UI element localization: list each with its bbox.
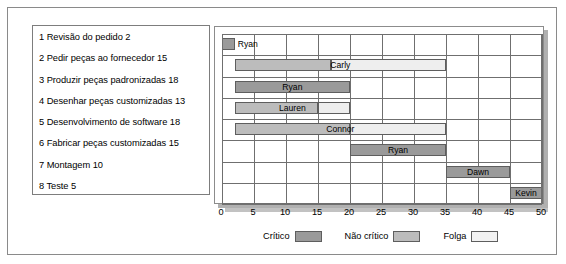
task-list-item: 5 Desenvolvimento de software 18	[39, 112, 207, 133]
x-tick-label: 0	[209, 207, 233, 217]
gantt-row: Ryan	[222, 77, 542, 98]
x-tick-label: 10	[273, 207, 297, 217]
legend-item-critical: Crítico	[263, 231, 322, 242]
x-tick-label: 50	[529, 207, 553, 217]
gantt-row: Kevin	[222, 183, 542, 204]
legend-label: Crítico	[263, 231, 290, 241]
gantt-row: Ryan	[222, 34, 542, 55]
task-list-item: 4 Desenhar peças customizadas 13	[39, 91, 207, 112]
x-tick-label: 5	[241, 207, 265, 217]
grid-line-horizontal	[222, 204, 542, 205]
chart-legend: CríticoNão críticoFolga	[263, 228, 498, 244]
x-tick-label: 20	[337, 207, 361, 217]
x-tick-label: 25	[369, 207, 393, 217]
task-list-item: 1 Revisão do pedido 2	[39, 27, 207, 48]
gantt-bar-resource-label: Ryan	[235, 81, 350, 93]
task-list-item: 8 Teste 5	[39, 176, 207, 197]
gantt-bar-resource-label: Dawn	[446, 166, 510, 178]
gantt-bar-critical[interactable]	[222, 38, 235, 50]
plot-panel: RyanCarlyRyanLaurenConnorRyanDawnKevin	[214, 26, 544, 204]
legend-label: Não crítico	[345, 231, 389, 241]
grid-line-vertical	[542, 34, 543, 204]
x-tick-label: 15	[305, 207, 329, 217]
task-list-item: 6 Fabricar peças customizadas 15	[39, 133, 207, 154]
legend-swatch-noncritical	[393, 231, 420, 242]
gantt-bar-resource-label: Connor	[235, 123, 446, 135]
gantt-row: Lauren	[222, 98, 542, 119]
gantt-chart-figure: 1 Revisão do pedido 22 Pedir peças ao fo…	[7, 7, 557, 255]
gantt-row: Carly	[222, 55, 542, 76]
gantt-row: Ryan	[222, 140, 542, 161]
gantt-bar-resource-label: Kevin	[510, 187, 542, 199]
legend-swatch-slack	[471, 231, 498, 242]
x-tick-label: 45	[497, 207, 521, 217]
x-tick-label: 30	[401, 207, 425, 217]
x-tick-label: 35	[433, 207, 457, 217]
legend-label: Folga	[443, 231, 466, 241]
legend-item-noncritical: Não crítico	[345, 231, 421, 242]
legend-swatch-critical	[295, 231, 322, 242]
gantt-row: Dawn	[222, 162, 542, 183]
gantt-row: Connor	[222, 119, 542, 140]
gantt-bar-resource-label: Ryan	[238, 38, 258, 50]
task-list-item: 3 Produzir peças padronizadas 18	[39, 70, 207, 91]
task-list-panel: 1 Revisão do pedido 22 Pedir peças ao fo…	[32, 25, 210, 195]
gantt-bar-resource-label: Lauren	[235, 102, 350, 114]
x-tick-label: 40	[465, 207, 489, 217]
gantt-bar-resource-label: Ryan	[350, 144, 446, 156]
task-list-item: 7 Montagem 10	[39, 155, 207, 176]
gantt-bar-resource-label: Carly	[235, 59, 446, 71]
legend-item-slack: Folga	[443, 231, 498, 242]
plot-area: RyanCarlyRyanLaurenConnorRyanDawnKevin	[222, 34, 542, 204]
task-list-item: 2 Pedir peças ao fornecedor 15	[39, 48, 207, 69]
